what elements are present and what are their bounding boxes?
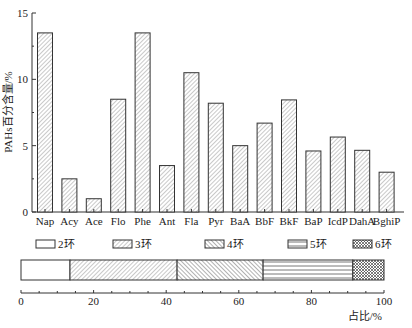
legend-label: 4环: [227, 238, 244, 250]
y-tick-label: 0: [23, 206, 29, 218]
legend-swatch: [113, 240, 132, 248]
bar-flo: [111, 99, 126, 212]
x-category-label: Pyr: [208, 215, 224, 227]
y-axis-label: PAHs百分含量/%: [1, 71, 14, 153]
x-tick-label: 80: [306, 295, 318, 307]
x-category-label: BaP: [304, 215, 322, 227]
x-category-label: Flo: [111, 215, 126, 227]
pahs-chart: PAHs百分含量/% 051015 NapAcyAceFloPheAntFlaP…: [0, 0, 412, 328]
legend-item: 4环: [205, 238, 244, 250]
x-axis-label: 占比/%: [348, 309, 382, 322]
bar-daha: [355, 150, 370, 212]
stack-segment: [21, 260, 70, 280]
x-category-label: Phe: [134, 215, 151, 227]
bar-icdp: [330, 137, 345, 212]
bars: [38, 33, 395, 212]
legend-item: 6环: [353, 238, 392, 250]
legend-swatch: [353, 240, 372, 248]
legend-item: 3环: [113, 238, 152, 250]
bar-bghip: [379, 172, 394, 212]
bar-bkf: [282, 100, 297, 212]
legend-label: 5环: [310, 238, 327, 250]
x-category-label: BghiP: [373, 215, 401, 227]
x-category-label: Nap: [36, 215, 55, 227]
x-category-label: IcdP: [328, 215, 348, 227]
bar-acy: [62, 179, 77, 212]
stack-segment: [263, 260, 353, 280]
legend-item: 5环: [288, 238, 327, 250]
x-axis-proportion: 020406080100: [18, 290, 393, 307]
x-category-label: BkF: [280, 215, 299, 227]
x-tick-label: 100: [376, 295, 393, 307]
stacked-bar-ring-proportion: 020406080100 占比/%: [18, 260, 393, 322]
bar-nap: [38, 33, 53, 212]
x-category-label: BbF: [255, 215, 274, 227]
x-category-label: Ant: [159, 215, 176, 227]
y-tick-label: 15: [17, 7, 29, 19]
x-category-label: Acy: [60, 215, 79, 227]
legend-swatch: [288, 240, 307, 248]
x-category-label: Fla: [184, 215, 198, 227]
x-tick-label: 0: [18, 295, 24, 307]
legend-swatch: [205, 240, 224, 248]
legend-item: 2环: [36, 238, 75, 250]
bar-bbf: [257, 123, 272, 212]
x-tick-label: 20: [88, 295, 100, 307]
bar-fla: [184, 73, 199, 212]
x-category-label: Ace: [85, 215, 103, 227]
stack-segment: [353, 260, 384, 280]
bar-chart-pahs: PAHs百分含量/% 051015 NapAcyAceFloPheAntFlaP…: [1, 7, 404, 227]
legend-swatch: [36, 240, 55, 248]
x-category-label: DahA: [349, 215, 375, 227]
x-category-label: BaA: [230, 215, 250, 227]
stack-segment: [70, 260, 177, 280]
x-tick-label: 40: [161, 295, 173, 307]
y-tick-label: 10: [17, 73, 29, 85]
legend-label: 2环: [58, 238, 75, 250]
stack-segment: [177, 260, 263, 280]
stacked-segments: [21, 260, 384, 280]
bar-baa: [233, 146, 248, 212]
bar-bap: [306, 151, 321, 212]
bar-ant: [160, 166, 175, 212]
legend: 2环3环4环5环6环: [36, 238, 392, 250]
x-tick-label: 60: [233, 295, 245, 307]
bar-pyr: [208, 103, 223, 212]
bar-phe: [135, 33, 150, 212]
legend-label: 3环: [135, 238, 152, 250]
legend-label: 6环: [375, 238, 392, 250]
y-tick-label: 5: [23, 140, 29, 152]
